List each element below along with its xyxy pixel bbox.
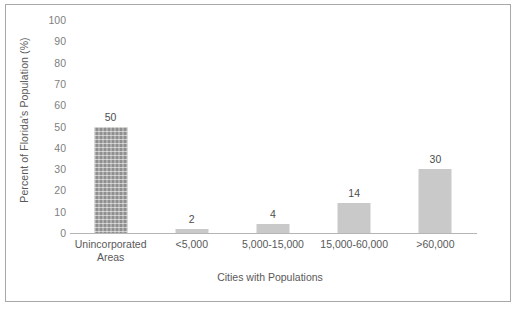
- y-axis-tick-label: 70: [40, 79, 66, 90]
- y-axis-tick-label: 30: [40, 164, 66, 175]
- y-axis-tick-label: 100: [40, 15, 66, 26]
- chart-figure: Percent of Florida's Population (%) 1009…: [0, 0, 517, 310]
- bar: [175, 229, 208, 233]
- y-axis-tick-label: 50: [40, 121, 66, 132]
- x-axis-category-label: >60,000: [385, 238, 485, 251]
- x-axis-title: Cities with Populations: [60, 271, 480, 283]
- bar-group: 4: [232, 20, 313, 233]
- y-axis-title: Percent of Florida's Population (%): [18, 10, 30, 230]
- bar-value-label: 50: [105, 111, 117, 123]
- bar-value-label: 4: [270, 208, 276, 220]
- bar-group: 2: [151, 20, 232, 233]
- plot-area: 50241430: [70, 20, 476, 233]
- x-axis-line: [70, 233, 477, 234]
- bar-group: 50: [70, 20, 151, 233]
- bar-value-label: 2: [189, 213, 195, 225]
- y-axis-tick-label: 20: [40, 185, 66, 196]
- bar-group: 30: [395, 20, 476, 233]
- bar: [338, 203, 371, 233]
- bar: [94, 127, 127, 234]
- y-axis-tick-label: 60: [40, 100, 66, 111]
- y-axis-tick-label: 80: [40, 57, 66, 68]
- x-axis-category-labels: UnincorporatedAreas<5,0005,000-15,00015,…: [70, 238, 476, 272]
- y-axis-tick-label: 40: [40, 143, 66, 154]
- y-axis-tick-label: 10: [40, 206, 66, 217]
- y-axis-tick-label: 90: [40, 36, 66, 47]
- y-axis-tick-label: 0: [40, 228, 66, 239]
- bar-value-label: 30: [430, 153, 442, 165]
- bar-group: 14: [314, 20, 395, 233]
- bar: [419, 169, 452, 233]
- bar-value-label: 14: [348, 187, 360, 199]
- bar: [256, 224, 289, 233]
